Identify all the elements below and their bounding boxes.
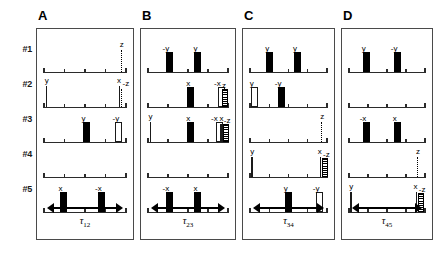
- tau-arrow-right-icon: [218, 203, 225, 213]
- axis-tick: [307, 174, 308, 178]
- pulse-label: x: [117, 77, 121, 85]
- axis-tick: [269, 104, 270, 108]
- axis-tick: [64, 174, 65, 178]
- trace-b-row-4: [148, 144, 228, 178]
- axis-tick: [207, 174, 208, 178]
- pulse-label: y: [250, 148, 254, 156]
- axis-tick: [125, 103, 126, 109]
- tau-label: τ45: [352, 215, 422, 229]
- axis-tick: [307, 69, 308, 73]
- pulse-label: -z: [323, 151, 330, 159]
- axis-tick: [64, 104, 65, 108]
- row-label-4: #4: [6, 149, 32, 159]
- tau-interval-34: τ34: [253, 203, 324, 231]
- pulse-z: [321, 122, 322, 142]
- pulse-negy: [166, 52, 173, 72]
- pulse-label: x: [393, 115, 397, 123]
- pulse-label: y: [250, 80, 254, 88]
- axis-tick: [348, 103, 349, 109]
- axis-tick: [269, 139, 270, 143]
- axis-tick: [64, 139, 65, 143]
- axis-tick: [227, 208, 228, 214]
- axis-tick: [424, 103, 425, 109]
- tau-label: τ34: [253, 215, 324, 229]
- axis-tick: [167, 104, 168, 108]
- pulse-label: -y: [275, 80, 282, 88]
- trace-a-row-3: y-y: [44, 109, 126, 143]
- pulse-z: [417, 157, 418, 177]
- axis-tick: [424, 138, 425, 144]
- axis-tick: [125, 173, 126, 179]
- pulse-label: x: [414, 183, 418, 191]
- row-label-5: #5: [6, 184, 32, 194]
- axis-tick: [405, 139, 406, 143]
- panel-a: zyx-zy-yx-xτ12: [36, 28, 134, 240]
- tau-line: [53, 207, 117, 209]
- axis-tick: [105, 139, 106, 143]
- pulse-label: x: [59, 185, 63, 193]
- pulse-label: -x: [95, 185, 102, 193]
- tau-interval-45: τ45: [352, 203, 422, 231]
- trace-a-row-2: yx-z: [44, 74, 126, 108]
- axis-tick: [43, 208, 44, 214]
- pulse-label: -y: [113, 115, 120, 123]
- pulse-y: [83, 122, 90, 142]
- tau-arrow-left-icon: [253, 203, 260, 213]
- tau-arrow-right-icon: [415, 203, 422, 213]
- pulse-x: [320, 157, 321, 177]
- axis-tick: [348, 138, 349, 144]
- axis-tick: [386, 139, 387, 143]
- pulse-label: -x: [211, 115, 218, 123]
- pulse-y: [150, 122, 151, 142]
- axis-tick: [187, 174, 188, 178]
- trace-a-row-1: z: [44, 39, 126, 73]
- pulse-y: [46, 86, 47, 107]
- pulse-label: x: [193, 185, 197, 193]
- pulse-label: z: [120, 41, 124, 49]
- pulse-label: y: [349, 183, 353, 191]
- pulse-negx: [363, 122, 370, 142]
- pulse-negy: [115, 122, 122, 142]
- tau-label: τ12: [47, 215, 123, 229]
- axis-tick: [307, 104, 308, 108]
- axis-tick: [125, 138, 126, 144]
- pulse-label: -x: [214, 80, 221, 88]
- pulse-label: x: [186, 80, 190, 88]
- tau-arrow-left-icon: [47, 203, 54, 213]
- axis-tick: [207, 104, 208, 108]
- tau-arrow-left-icon: [151, 203, 158, 213]
- trace-c-row-3: z: [250, 109, 327, 143]
- panel-b: -yyx-xzyx-xx-z-xxτ23: [140, 28, 236, 240]
- axis-tick: [105, 69, 106, 73]
- tau-line: [259, 207, 318, 209]
- pulse-y: [266, 52, 273, 72]
- axis-tick: [187, 69, 188, 73]
- panel-letter-d: D: [343, 8, 352, 23]
- pulse-label: z: [416, 148, 420, 156]
- trace-d-row-1: y-y: [349, 39, 425, 73]
- axis-tick: [147, 138, 148, 144]
- pulse-label: y: [82, 115, 86, 123]
- tau-interval-12: τ12: [47, 203, 123, 231]
- pulse-z: [222, 89, 228, 107]
- pulse-label: -x: [163, 185, 170, 193]
- pulse-y: [251, 157, 252, 177]
- tau-arrow-right-icon: [116, 203, 123, 213]
- pulse-z: [121, 50, 122, 72]
- tau-line: [358, 207, 416, 209]
- pulse-label: -y: [313, 185, 320, 193]
- axis-tick: [405, 104, 406, 108]
- trace-b-row-1: -yy: [148, 39, 228, 73]
- pulse-negz: [121, 89, 122, 107]
- tau-label: τ23: [151, 215, 225, 229]
- axis-tick: [147, 208, 148, 214]
- axis-tick: [84, 174, 85, 178]
- trace-b-row-2: x-xz: [148, 74, 228, 108]
- pulse-label: z: [222, 82, 226, 90]
- pulse-label: y: [265, 45, 269, 53]
- axis-tick: [288, 69, 289, 73]
- axis-tick: [249, 138, 250, 144]
- pulse-negy: [278, 87, 285, 107]
- trace-a-row-4: [44, 144, 126, 178]
- trace-c-row-1: yy: [250, 39, 327, 73]
